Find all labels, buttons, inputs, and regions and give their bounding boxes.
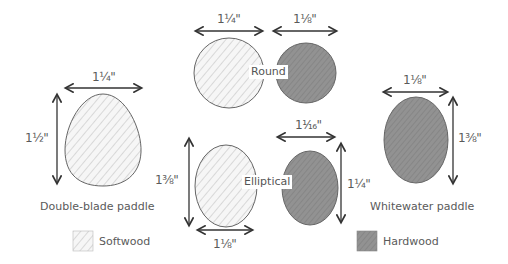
whitewater-width-label: 1⅛" (403, 73, 426, 87)
round-group-label: Round (249, 65, 288, 79)
round-hardwood-width-label: 1⅛" (293, 12, 316, 26)
softwood-swatch (73, 231, 93, 251)
whitewater-height-label: 1⅜" (458, 131, 481, 145)
legend-softwood-label: Softwood (99, 235, 150, 248)
double-blade-caption: Double-blade paddle (40, 200, 155, 213)
elliptical-group-label: Elliptical (242, 175, 292, 189)
double-blade-height-label: 1½" (25, 131, 48, 145)
hardwood-swatch (357, 231, 377, 251)
whitewater-shape (384, 92, 453, 183)
elliptical-hardwood-height-label: 1¼" (347, 177, 370, 191)
elliptical-softwood-height-label: 1⅜" (155, 173, 178, 187)
double-blade-width-label: 1¼" (92, 70, 115, 84)
elliptical-softwood-width-label: 1⅛" (213, 237, 236, 251)
double-blade-shape (57, 88, 141, 186)
diagram-canvas (0, 0, 508, 264)
legend-hardwood-label: Hardwood (383, 235, 439, 248)
elliptical-hardwood-width-label: 1¹⁄₁₆" (295, 118, 322, 132)
whitewater-caption: Whitewater paddle (370, 200, 474, 213)
round-softwood-width-label: 1¼" (217, 12, 240, 26)
